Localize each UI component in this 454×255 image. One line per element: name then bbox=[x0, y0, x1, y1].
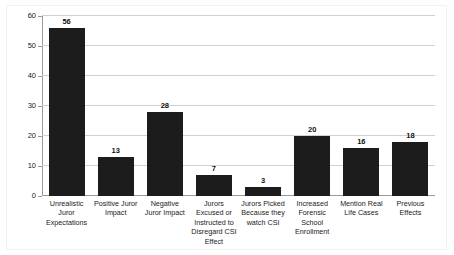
x-axis-category-label: Previous Effects bbox=[386, 199, 435, 218]
category-label-slot: Previous Effects bbox=[386, 199, 435, 218]
bar-group[interactable]: 20 bbox=[288, 16, 337, 196]
bar[interactable] bbox=[392, 142, 428, 196]
bar[interactable] bbox=[196, 175, 232, 196]
bar-value-label: 13 bbox=[112, 146, 120, 155]
bars-layer: 56132873201618 bbox=[42, 16, 435, 196]
bar-group[interactable]: 18 bbox=[386, 16, 435, 196]
category-label-slot: Jurors Picked Because they watch CSI bbox=[239, 199, 288, 227]
category-label-slot: Negative Juror Impact bbox=[140, 199, 189, 218]
bar-group[interactable]: 3 bbox=[239, 16, 288, 196]
category-label-slot: Positive Juror Impact bbox=[91, 199, 140, 218]
category-label-slot: Increased Forensic School Enrollment bbox=[288, 199, 337, 237]
bar-group[interactable]: 13 bbox=[91, 16, 140, 196]
y-axis-tick-label: 50 bbox=[28, 42, 36, 50]
bar[interactable] bbox=[49, 28, 85, 196]
x-axis-category-label: Mention Real Life Cases bbox=[337, 199, 386, 218]
bar-chart: 0102030405060 56132873201618 Unrealistic… bbox=[0, 0, 454, 255]
x-axis-category-label: Unrealistic Juror Expectations bbox=[42, 199, 91, 227]
category-labels: Unrealistic Juror ExpectationsPositive J… bbox=[42, 199, 435, 253]
bar-group[interactable]: 16 bbox=[337, 16, 386, 196]
bar-value-label: 28 bbox=[161, 101, 169, 110]
y-axis-tick-label: 20 bbox=[28, 132, 36, 140]
bar-group[interactable]: 7 bbox=[189, 16, 238, 196]
x-axis-category-label: Positive Juror Impact bbox=[91, 199, 140, 218]
bar-value-label: 56 bbox=[62, 17, 70, 26]
bar-value-label: 7 bbox=[212, 164, 216, 173]
y-axis: 0102030405060 bbox=[0, 0, 42, 212]
bar-group[interactable]: 28 bbox=[140, 16, 189, 196]
bar[interactable] bbox=[245, 187, 281, 196]
bar-value-label: 3 bbox=[261, 176, 265, 185]
x-axis-category-label: Increased Forensic School Enrollment bbox=[288, 199, 337, 237]
y-axis-tick-label: 60 bbox=[28, 12, 36, 20]
category-label-slot: Mention Real Life Cases bbox=[337, 199, 386, 218]
y-axis-tick-label: 0 bbox=[32, 192, 36, 200]
y-axis-tick-label: 30 bbox=[28, 102, 36, 110]
bar[interactable] bbox=[343, 148, 379, 196]
bar-group[interactable]: 56 bbox=[42, 16, 91, 196]
x-axis-category-label: Negative Juror Impact bbox=[140, 199, 189, 218]
bar-value-label: 18 bbox=[406, 131, 414, 140]
y-axis-tick-mark bbox=[38, 196, 42, 197]
x-axis-category-label: Jurors Picked Because they watch CSI bbox=[239, 199, 288, 227]
category-label-slot: Jurors Excused or Instructed to Disregar… bbox=[189, 199, 238, 246]
bar[interactable] bbox=[98, 157, 134, 196]
bar-value-label: 20 bbox=[308, 125, 316, 134]
bar[interactable] bbox=[147, 112, 183, 196]
y-axis-tick-label: 40 bbox=[28, 72, 36, 80]
x-axis-category-label: Jurors Excused or Instructed to Disregar… bbox=[189, 199, 238, 246]
bar-value-label: 16 bbox=[357, 137, 365, 146]
bar[interactable] bbox=[294, 136, 330, 196]
category-label-slot: Unrealistic Juror Expectations bbox=[42, 199, 91, 227]
y-axis-tick-label: 10 bbox=[28, 162, 36, 170]
